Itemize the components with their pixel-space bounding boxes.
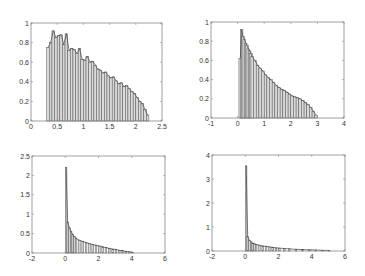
y-tick-label: 0.4 (19, 78, 29, 85)
histogram-bar (70, 48, 73, 121)
histogram-bar (272, 247, 274, 251)
y-tick-label: 1 (26, 211, 30, 218)
y-tick-label: 3 (206, 176, 210, 183)
histogram-bar (259, 68, 262, 118)
histogram-bar (131, 92, 134, 121)
y-tick-label: 1.5 (20, 191, 30, 198)
histogram-bar (112, 249, 114, 253)
y-tick-label: 4 (206, 152, 210, 159)
histogram-bar (78, 48, 81, 121)
histogram-bar (291, 96, 294, 118)
x-tick-label: 0 (243, 253, 247, 260)
histogram-bar (296, 98, 299, 118)
x-tick-label: 2.5 (157, 123, 167, 130)
x-tick-label: 1.5 (105, 123, 115, 130)
histogram-bar (275, 248, 277, 251)
histogram-bar (47, 48, 50, 122)
histogram-bar (81, 59, 84, 121)
y-tick-label: 2 (26, 172, 30, 179)
histogram-bar (85, 243, 87, 253)
y-tick-label: 1 (25, 20, 29, 27)
histogram-bar (75, 238, 77, 253)
histogram-panel-bottom-left: -2024600.511.522.5 (20, 153, 167, 263)
histogram-bars (47, 31, 149, 121)
histogram-bar (255, 245, 257, 251)
x-tick-label: 3 (315, 120, 319, 127)
histogram-bar (102, 247, 104, 253)
histogram-bar (120, 83, 123, 121)
histogram-bars (65, 168, 133, 253)
histogram-bar (136, 97, 139, 121)
histogram-bar (83, 60, 86, 121)
x-tick-label: 2 (289, 120, 293, 127)
histogram-bar (123, 87, 126, 121)
y-tick-label: 1 (206, 224, 210, 231)
histogram-bar (79, 240, 81, 253)
x-tick-label: 4 (342, 120, 346, 127)
histogram-bar (307, 105, 310, 118)
x-tick-label: 2 (277, 253, 281, 260)
histogram-bar (280, 89, 283, 118)
histogram-bar (259, 245, 261, 251)
histogram-bar (73, 49, 76, 121)
histogram-bar (272, 82, 275, 118)
histogram-figure: 00.511.522.500.20.40.60.81 -10123400.20.… (0, 0, 365, 276)
histogram-bar (92, 244, 94, 253)
histogram-bar (105, 248, 107, 253)
histogram-bar (133, 94, 136, 121)
histogram-bar (68, 50, 71, 121)
histogram-bar (146, 115, 149, 121)
x-tick-label: 0.5 (52, 123, 62, 130)
x-tick-label: 0 (236, 120, 240, 127)
histogram-bar (89, 62, 92, 121)
axes-box (212, 155, 345, 251)
y-tick-label: 2 (206, 200, 210, 207)
axes-box (32, 156, 165, 253)
x-tick-label: 1 (262, 120, 266, 127)
histogram-bar (269, 247, 271, 251)
x-tick-label: 2 (97, 255, 101, 262)
x-tick-label: 0 (29, 123, 33, 130)
histogram-bar (82, 241, 84, 253)
histogram-bar (315, 115, 318, 118)
histogram-bar (275, 85, 278, 118)
y-tick-label: 0.6 (19, 59, 29, 66)
histogram-bar (293, 97, 296, 118)
y-tick-label: 0.8 (199, 38, 209, 45)
histogram-bar (262, 246, 264, 251)
histogram-panel-top-left: 00.511.522.500.20.40.60.81 (19, 20, 167, 131)
histogram-bars (239, 30, 317, 118)
histogram-bar (104, 72, 107, 121)
histogram-bar (115, 81, 118, 121)
histogram-bar (256, 65, 259, 118)
histogram-bar (91, 61, 94, 121)
histogram-bars (245, 166, 330, 251)
histogram-bar (128, 89, 131, 121)
y-tick-label: 2.5 (20, 153, 30, 160)
histogram-bar (94, 65, 97, 121)
histogram-bar (251, 57, 254, 118)
histogram-bar (49, 43, 52, 121)
y-tick-label: 0.4 (199, 76, 209, 83)
histogram-bar (304, 103, 307, 118)
y-tick-label: 0.8 (19, 39, 29, 46)
x-tick-label: 6 (343, 253, 347, 260)
histogram-bar (55, 38, 58, 121)
histogram-bar (288, 94, 291, 118)
histogram-bar (86, 56, 89, 121)
y-tick-label: 0 (26, 250, 30, 257)
histogram-bar (76, 53, 79, 121)
histogram-bar (285, 92, 288, 118)
histogram-bar (112, 77, 115, 121)
histogram-bar (110, 78, 113, 121)
histogram-bar (57, 36, 60, 121)
histogram-bar (99, 70, 102, 121)
histogram-bar (283, 90, 286, 118)
histogram-bar (102, 73, 105, 121)
histogram-bar (107, 76, 110, 121)
histogram-bar (115, 250, 117, 253)
histogram-bar (125, 86, 128, 121)
x-tick-label: 4 (310, 253, 314, 260)
histogram-bar (117, 84, 120, 121)
y-tick-label: 0 (205, 115, 209, 122)
